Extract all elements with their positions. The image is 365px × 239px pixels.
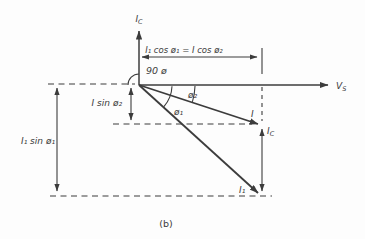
right-angle-label: 90 ø xyxy=(146,65,167,76)
phi1-angle-label: ø₁ xyxy=(173,107,184,117)
vector-i-label: I xyxy=(251,109,254,119)
vector-i xyxy=(139,85,258,124)
top-dimension-label: I₁ cos ø₁ = I cos ø₂ xyxy=(145,45,223,55)
vector-i1-label: I₁ xyxy=(239,185,246,195)
phi2-angle-label: ø₂ xyxy=(187,90,198,100)
phasor-diagram-canvas: IC VS I₁ cos ø₁ = I cos ø₂ 90 ø ø₂ ø₁ I … xyxy=(0,0,365,239)
phi1-angle-arc xyxy=(164,86,172,106)
phasor-diagram-figure: IC VS I₁ cos ø₁ = I cos ø₂ 90 ø ø₂ ø₁ I … xyxy=(0,0,365,239)
ic-axis-label: IC xyxy=(135,14,143,26)
i-sin-phi2-label: I sin ø₂ xyxy=(92,98,123,108)
vector-i1 xyxy=(139,85,258,193)
i1-sin-phi1-label: I₁ sin ø₁ xyxy=(21,136,55,146)
ic-component-label: IC xyxy=(267,126,275,138)
figure-caption: (b) xyxy=(159,218,172,229)
vs-axis-label: VS xyxy=(336,81,346,93)
right-angle-arc xyxy=(128,74,139,85)
